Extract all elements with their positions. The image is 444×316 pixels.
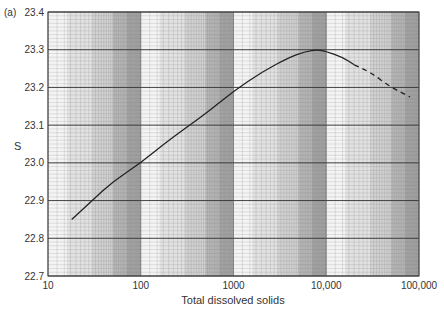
y-axis-label: S xyxy=(14,140,21,152)
x-tick-label: 1000 xyxy=(222,280,245,291)
x-tick-label: 100 xyxy=(132,280,149,291)
y-tick-label: 23.4 xyxy=(25,7,45,18)
y-tick-label: 22.8 xyxy=(25,233,45,244)
y-tick-label: 23.1 xyxy=(25,120,45,131)
x-tick-label: 10,000 xyxy=(311,280,342,291)
x-tick-label: 100,000 xyxy=(401,280,438,291)
x-tick-labels: 10100100010,000100,000 xyxy=(42,280,437,291)
chart: 22.722.822.923.023.123.223.323.4 1010010… xyxy=(0,0,444,316)
y-tick-label: 22.9 xyxy=(25,195,45,206)
x-axis-label: Total dissolved solids xyxy=(181,294,285,306)
y-tick-label: 22.7 xyxy=(25,271,45,282)
x-tick-label: 10 xyxy=(42,280,54,291)
y-tick-label: 23.0 xyxy=(25,157,45,168)
y-tick-label: 23.3 xyxy=(25,44,45,55)
panel-label: (a) xyxy=(4,7,16,18)
y-tick-labels: 22.722.822.923.023.123.223.323.4 xyxy=(25,7,45,282)
y-tick-label: 23.2 xyxy=(25,82,45,93)
